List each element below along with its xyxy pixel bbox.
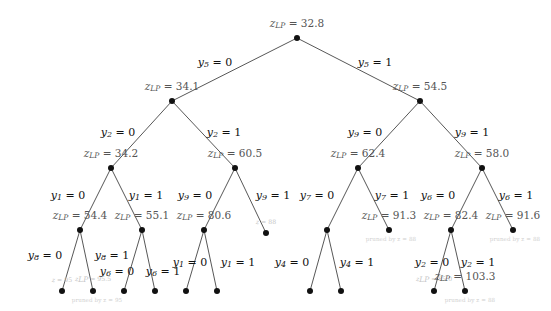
edge-label-y5-1: y5 = 1 (358, 57, 393, 69)
tree-node (77, 227, 83, 233)
tree-node (386, 227, 392, 233)
tree-node (324, 227, 330, 233)
tree-edge (142, 230, 155, 291)
pruned-note: pruned by z = 88 (366, 237, 417, 243)
node-bound-label: zLP = 34.1 (145, 81, 199, 93)
node-bound-label: zLP = 82.4 (424, 210, 478, 222)
tree-node (232, 165, 238, 171)
node-bound-label: zLP = 62.4 (331, 148, 385, 160)
tree-node (263, 230, 269, 236)
pruned-note: pruned by z = 88 (445, 298, 496, 304)
branch-and-bound-tree-figure: y5 = 0y5 = 1y2 = 0y2 = 1y9 = 0y9 = 1y1 =… (0, 0, 551, 311)
node-bound-label: z = 95 (52, 277, 72, 283)
edge-label-y6-0: y6 = 0 (421, 190, 456, 202)
node-bound-label: zLP = 91.6 (486, 210, 540, 222)
edge-label-y4-0: y4 = 0 (275, 257, 310, 269)
tree-node (169, 98, 175, 104)
edge-label-y9-0: y9 = 0 (348, 127, 383, 139)
edge-label-y7-1: y7 = 1 (375, 190, 410, 202)
edge-label-y1-1: y1 = 1 (129, 190, 164, 202)
tree-node (90, 288, 96, 294)
edge-label-y1-0: y1 = 0 (51, 190, 86, 202)
node-bound-label: z = 88 (256, 219, 276, 225)
edge-label-y6-1: y6 = 1 (499, 190, 534, 202)
edge-label-y4-1: y4 = 1 (340, 257, 375, 269)
edge-label-y2-1: y2 = 1 (207, 127, 242, 139)
tree-node (431, 288, 437, 294)
edge-label-y1-0: y1 = 0 (173, 257, 208, 269)
tree-node (307, 288, 313, 294)
tree-node (479, 165, 485, 171)
edge-label-y9-1: y9 = 1 (455, 127, 490, 139)
tree-node (417, 98, 423, 104)
tree-node (448, 227, 454, 233)
node-bound-label: zLP = 80.6 (177, 210, 231, 222)
node-bound-label: zLP = 55.1 (115, 210, 169, 222)
edge-label-y7-0: y7 = 0 (300, 190, 335, 202)
node-bound-label: zLP = 103.3 (434, 271, 495, 283)
tree-node (338, 288, 344, 294)
node-bound-label: zLP = 32.8 (270, 18, 324, 30)
pruned-note: pruned by z = 95 (72, 298, 123, 304)
tree-edge (310, 230, 327, 291)
tree-node (108, 165, 114, 171)
tree-node (510, 227, 516, 233)
node-bound-label: zLP = 54.4 (53, 210, 107, 222)
tree-node (294, 35, 300, 41)
tree-node (121, 288, 127, 294)
node-bound-label: zLP = 58.0 (455, 148, 509, 160)
edge-label-y8-1: y8 = 1 (95, 250, 130, 262)
edge-label-y5-0: y5 = 0 (198, 57, 233, 69)
edge-label-y9-0: y9 = 0 (178, 190, 213, 202)
tree-node (152, 288, 158, 294)
tree-node (462, 288, 468, 294)
node-bound-label: zLP = 54.5 (393, 81, 447, 93)
edge-label-y2-1: y2 = 1 (461, 257, 496, 269)
tree-node (59, 288, 65, 294)
edge-label-y9-1: y9 = 1 (256, 190, 291, 202)
edge-label-y2-0: y2 = 0 (101, 127, 136, 139)
node-bound-label: zLP = 34.2 (84, 148, 138, 160)
tree-node (214, 288, 220, 294)
node-bound-label: zLP = 60.5 (208, 148, 262, 160)
tree-node (139, 227, 145, 233)
node-bound-label: zLP = 91.3 (362, 210, 416, 222)
edge-label-y8-0: y8 = 0 (28, 250, 63, 262)
tree-node (355, 165, 361, 171)
node-bound-label: zLP = 95.5 (75, 276, 111, 284)
tree-node (201, 227, 207, 233)
pruned-note: pruned by z = 88 (490, 237, 541, 243)
edge-label-y1-1: y1 = 1 (221, 257, 256, 269)
tree-node (183, 288, 189, 294)
edge-label-y2-0: y2 = 0 (415, 257, 450, 269)
